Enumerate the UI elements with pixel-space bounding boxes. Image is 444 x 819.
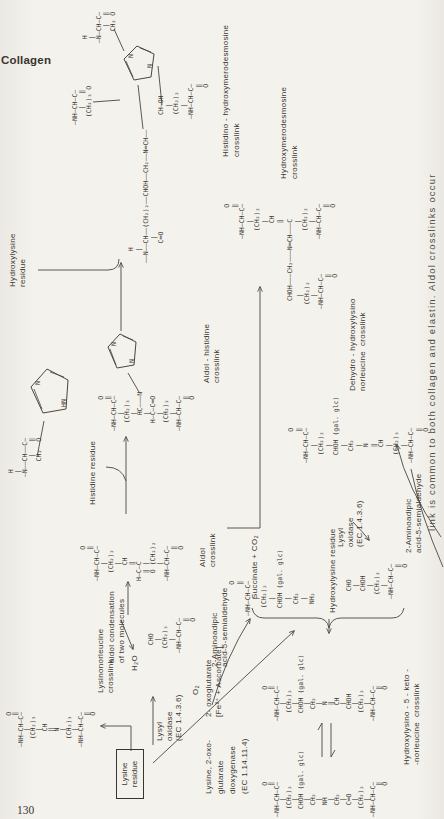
chain-to-ring-bond: [138, 85, 143, 129]
label-hydroxylysine-1: Hydroxylysine residue: [8, 233, 27, 287]
structure-final-arm2: H | —N—CH—C— | ‖ CH₂ O: [82, 12, 117, 47]
label-aldol-crosslink: Aldol crosslink: [198, 533, 217, 567]
ring-bond-aldol-histidine: [128, 373, 139, 392]
label-oxoglutarate: 2- oxoglutarate [Fe²⁺ + Ascorbate]: [204, 646, 223, 717]
imidazole-ring-icon: N HN: [26, 363, 72, 421]
hydroxylysine-join-curve: [38, 259, 119, 270]
structure-merodesmosine-top: O ‖ —NH—CH—C— | (CH₂)₂ | CH ‖: [224, 204, 284, 239]
structure-merodesmosine-chain: CHOH———CH₂———N═CH———C: [287, 219, 294, 301]
label-h2o: H₂O: [130, 655, 140, 671]
svg-text:HN: HN: [60, 399, 68, 407]
page-number: 130: [17, 804, 34, 816]
structure-dehydro: O ‖ —NH—CH—C— | (CH₂)₂ | CHOH (gal. glc)…: [288, 396, 431, 463]
structure-lysinonorleucine: O ‖ —NH—CH—C— | (CH₂)₃ | CH ‖ N | (CH₂)₃…: [6, 712, 96, 751]
label-succinate: Succinate + CO₂: [250, 535, 260, 599]
structure-merodesmosine-arm-l: | (CH₂)₂ | —NH—CH—C— ‖ O: [297, 274, 339, 309]
label-lysyl-oxidase-1: Lysyl oxidase (EC 1.4.3.6): [155, 694, 184, 741]
ring-bond-final-left: [93, 100, 120, 102]
structure-semialdehyde-2: CHO | CHOH | (CH₂)₂ | —NH—CH—C— ‖ O: [346, 564, 409, 599]
svg-text:N: N: [128, 359, 136, 363]
svg-text:N: N: [127, 54, 135, 58]
label-histidino-crosslink: Histidino - hydroxymerodesmosine crossli…: [220, 25, 242, 157]
label-hydroxymerodesmosine: Hydroxymerodesmosine crosslink: [278, 87, 300, 179]
svg-text:N: N: [110, 342, 118, 346]
lysine-residue-box: Lysine residue: [116, 749, 144, 799]
aldol-to-merodesmosine-arrow: [227, 287, 260, 528]
structure-final-arm1: —NH—CH—C— | ‖ (CH₂)₃ O: [72, 86, 93, 125]
structure-aldol-crosslink: O ‖ —NH—CH—C— | (CH₂)₂ | CH ‖ H—C—C ‖ | …: [80, 542, 185, 581]
structure-aldol-histidine: O ‖ —NH—CH—C— | (CH₂)₃ | HC———N | H—C—C═…: [98, 392, 196, 431]
label-lysyl-oxidase-2: Lysyl oxidase (EC 1.4.3.6): [336, 500, 365, 547]
label-dioxygenase: Lysine, 2-oxo- glutarate dioxygenase (EC…: [203, 738, 251, 794]
structure-hydroxylysine-residue: O ‖ —NH—CH—C— | (CH₂)₂ | CHOH (gal. glc)…: [228, 549, 316, 616]
label-aminoadipic-2: 2-Aminoadipic acid-5-semialdehyde: [404, 473, 423, 553]
book-page: Collagen: [0, 0, 444, 819]
label-o2: O₂: [191, 685, 201, 695]
imidazole-ring-icon: N N: [104, 331, 140, 373]
structure-final-arm4: CH—OH | (CH₂)₂ | —NH—CH—C— ‖ O: [158, 84, 211, 119]
figure-caption: link is common to both collagen and elas…: [426, 173, 437, 531]
label-histidine-residue: Histidine residue: [88, 441, 98, 505]
structure-histidine-residue: H | —N——CH——C— | ‖ CH₂ O: [8, 438, 43, 481]
structure-keto: O ‖ —NH—CH—C— | (CH₂)₂ | CHOH (gal. glc)…: [262, 750, 388, 817]
label-keto-crosslink: Hydroxylysino - 5 - keto - -norleucine c…: [402, 669, 421, 765]
svg-text:N: N: [34, 381, 42, 385]
label-aldol-histidine: Aldol - histidine crosslink: [202, 324, 221, 383]
imidazole-ring-icon: N N: [120, 43, 158, 85]
collagen-crosslink-diagram: O ‖ —NH—CH—C— | (CH₂)₃ | CH ‖ N | (CH₂)₃…: [0, 0, 444, 819]
structure-final-chain: H | ——N——CH——(CH₂)₂——CHOH——CH₂——N═CH—— |…: [128, 130, 166, 263]
histidine-join-curve: [106, 467, 126, 481]
structure-merodesmosine-arm-r: | (CH₂)₂ | —NH—CH—C— ‖ O: [295, 204, 337, 239]
to-lysinonorleucine-arrow: [101, 726, 131, 751]
structure-semialdehyde-1: CHO | (CH₂)₃ | —NH—CH—C— ‖ O: [148, 618, 197, 653]
svg-text:N: N: [146, 64, 154, 68]
label-aldol-condensation: aldol condensation of two molecules: [107, 591, 126, 663]
label-dehydro-crosslink: Dehydro - hydroxylysino norleucine cross…: [348, 298, 367, 391]
structure-dehydro-glc: O ‖ —NH—CH—C— | (CH₂)₂ | CHOH (gal. glc)…: [262, 654, 388, 721]
